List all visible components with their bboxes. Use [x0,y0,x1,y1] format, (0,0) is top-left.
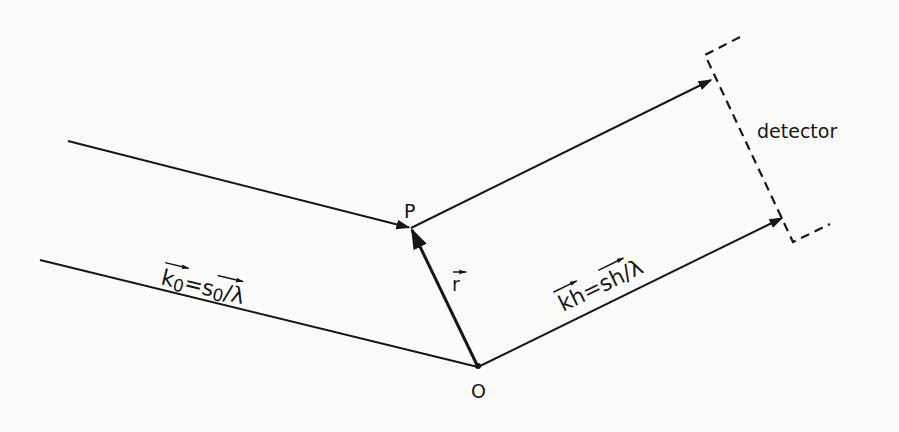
incident-vector-label: k0=s0/λ [158,263,247,311]
point-label-o: O [471,380,486,402]
position-vector-label: r [452,272,466,295]
point-label-p: P [404,200,415,222]
detector-label: detector [757,120,837,142]
svg-text:k0=s0/λ: k0=s0/λ [158,265,247,311]
diffraction-diagram: P O detector r k0=s0/λ kh=sh/λ [0,0,899,432]
incident-ray-lower [40,260,478,367]
diffracted-ray-upper [411,80,711,228]
origin-point-marker [475,363,481,369]
svg-text:r: r [452,273,460,295]
position-vector-r [412,230,478,367]
incident-ray-upper [68,141,409,228]
diffracted-ray-lower [478,218,782,367]
